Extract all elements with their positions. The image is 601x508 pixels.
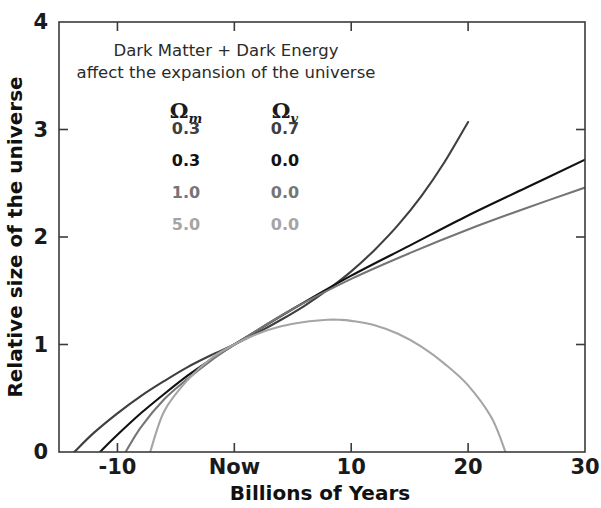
legend-value-omega-m: 0.3 xyxy=(172,151,200,170)
cosmology-expansion-figure: -10Now102030 01234 Billions of Years Rel… xyxy=(0,0,601,508)
x-tick-label: 10 xyxy=(337,455,366,479)
y-tick-label: 2 xyxy=(33,225,48,249)
legend-value-omega-m: 0.3 xyxy=(172,119,200,138)
plot-background xyxy=(59,22,585,452)
y-tick-label: 4 xyxy=(33,10,48,34)
x-tick-label: 20 xyxy=(453,455,482,479)
legend-value-omega-v: 0.0 xyxy=(271,183,299,202)
x-tick-label: -10 xyxy=(98,455,136,479)
legend-value-omega-m: 1.0 xyxy=(172,183,200,202)
legend-value-omega-v: 0.0 xyxy=(271,151,299,170)
x-tick-label-group: -10Now102030 xyxy=(98,455,599,479)
y-tick-label: 3 xyxy=(33,118,48,142)
y-tick-label-group: 01234 xyxy=(33,10,48,464)
x-axis-title: Billions of Years xyxy=(230,481,410,505)
legend-annotation-line2: affect the expansion of the universe xyxy=(77,63,376,82)
legend-value-omega-v: 0.7 xyxy=(271,119,299,138)
x-tick-label: 30 xyxy=(570,455,599,479)
y-tick-label: 0 xyxy=(33,440,48,464)
expansion-chart: -10Now102030 01234 Billions of Years Rel… xyxy=(0,0,601,508)
x-tick-label: Now xyxy=(209,455,260,479)
y-axis-title: Relative size of the universe xyxy=(3,76,27,397)
legend-value-omega-v: 0.0 xyxy=(271,215,299,234)
y-tick-label: 1 xyxy=(33,333,48,357)
legend-annotation-line1: Dark Matter + Dark Energy xyxy=(113,41,338,60)
legend-value-omega-m: 5.0 xyxy=(172,215,200,234)
